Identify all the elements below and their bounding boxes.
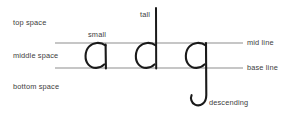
label-tall: tall (140, 11, 150, 18)
letter-anatomy-diagram: top space middle space bottom space smal… (0, 0, 293, 115)
letter-g (186, 43, 206, 105)
letter-a (86, 43, 106, 68)
label-descending: descending (209, 99, 248, 106)
letter-g-bowl (186, 43, 206, 68)
letter-a-bowl (86, 43, 106, 68)
label-base-line: base line (247, 64, 278, 71)
label-mid-line: mid line (247, 39, 274, 46)
label-middle-space: middle space (13, 52, 58, 59)
label-small: small (88, 31, 106, 38)
letter-g-descender (191, 43, 206, 105)
letter-d-bowl (136, 43, 156, 68)
label-top-space: top space (13, 19, 46, 26)
label-bottom-space: bottom space (13, 83, 59, 90)
